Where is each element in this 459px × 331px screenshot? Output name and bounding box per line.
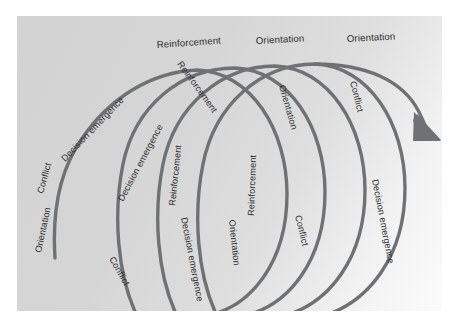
label-cycle3-reinforcement: Reinforcement: [246, 154, 258, 216]
label-cycle3-orientation: Orientation: [227, 219, 242, 266]
label-cycle4-decision-emergence: Decision emergence: [370, 178, 396, 264]
spiral-curve-loop3: [158, 66, 365, 311]
diagram-panel: Orientation Conflict Decision emergence …: [17, 16, 442, 311]
spiral-curve-loop2: [118, 68, 325, 311]
label-tail-conflict: Conflict: [35, 161, 53, 194]
label-cycle3-orientation-top: Orientation: [347, 30, 396, 44]
label-cycle2-orientation-top: Orientation: [256, 32, 305, 46]
label-cycle1-decision-emergence: Decision emergence: [59, 95, 126, 164]
label-cycle1-conflict: Conflict: [107, 255, 132, 288]
figure-root: Orientation Conflict Decision emergence …: [0, 0, 459, 331]
label-cycle2-reinforcement: Reinforcement: [167, 144, 183, 206]
spiral-diagram-svg: Orientation Conflict Decision emergence …: [17, 16, 442, 311]
label-cycle1-reinforcement-top: Reinforcement: [156, 35, 221, 50]
spiral-curve-exit: [315, 64, 429, 136]
label-cycle3-conflict: Conflict: [293, 214, 310, 247]
label-cycle2-orientation-inner: Orientation: [277, 84, 299, 131]
label-tail-orientation: Orientation: [33, 206, 52, 253]
arrow-head-triangle-icon: [413, 112, 441, 141]
